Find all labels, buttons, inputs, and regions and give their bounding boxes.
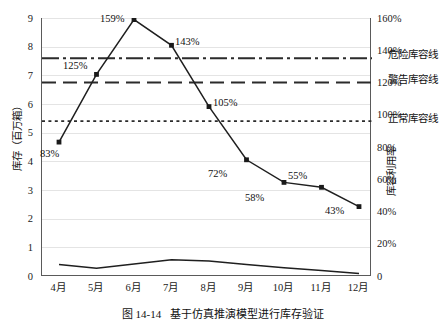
point-value-label: 43%	[325, 205, 344, 216]
point-value-label: 83%	[40, 148, 59, 159]
point-value-label: 55%	[288, 170, 307, 181]
y-tick-left: 8	[3, 41, 33, 52]
data-point-marker	[132, 18, 137, 22]
data-point-marker	[282, 180, 287, 185]
point-value-label: 72%	[208, 168, 227, 179]
x-tick-label: 12月	[336, 282, 380, 293]
plot-area	[41, 18, 371, 276]
data-point-marker	[319, 185, 324, 190]
y-tick-right: 20%	[377, 238, 415, 249]
figure-caption: 图 14-14基于仿真推演模型进行库存验证	[0, 305, 446, 321]
inventory-series-line	[59, 260, 359, 274]
data-point-marker	[207, 104, 212, 109]
y-axis-title-right: 库容利用率	[383, 121, 398, 221]
y-tick-right: 0	[377, 271, 415, 282]
y-tick-left: 7	[3, 70, 33, 81]
figure-number: 图 14-14	[122, 308, 161, 320]
data-point-marker	[169, 43, 174, 48]
point-value-label: 105%	[213, 97, 238, 108]
point-value-label: 58%	[245, 192, 264, 203]
y-axis-title-left: 库存（百万箱）	[9, 86, 24, 186]
series-svg	[42, 18, 372, 276]
y-tick-left: 9	[3, 13, 33, 24]
data-point-marker	[357, 204, 362, 209]
data-point-marker	[94, 72, 99, 77]
y-tick-left: 0	[3, 271, 33, 282]
danger-capacity-label: 危险库容线	[388, 46, 438, 61]
figure: 9 8 7 6 5 4 3 2 1 0 160% 140% 120% 100% …	[0, 0, 446, 327]
point-value-label: 143%	[175, 36, 200, 47]
y-tick-left: 1	[3, 242, 33, 253]
y-tick-right: 160%	[377, 13, 415, 24]
data-point-marker	[244, 157, 249, 162]
normal-capacity-label: 正常库容线	[388, 110, 438, 125]
figure-caption-text: 基于仿真推演模型进行库存验证	[170, 308, 324, 320]
y-tick-left: 3	[3, 185, 33, 196]
point-value-label: 159%	[100, 13, 125, 24]
y-tick-left: 2	[3, 213, 33, 224]
point-value-label: 125%	[63, 60, 88, 71]
data-point-marker	[57, 140, 62, 145]
warning-capacity-label: 警告库容线	[388, 71, 438, 86]
